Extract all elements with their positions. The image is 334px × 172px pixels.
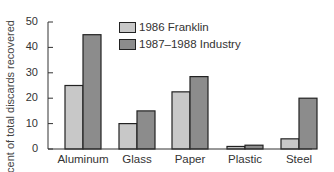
y-tick-30: 30 (18, 66, 38, 78)
legend-item-1987-1988-industry: 1987–1988 Industry (119, 38, 241, 50)
bar-aluminum-1987-1988 (83, 35, 101, 149)
y-tick-10: 10 (18, 117, 38, 129)
y-tick-40: 40 (18, 40, 38, 52)
category-steel: Steel (269, 153, 329, 165)
bar-paper-1987-1988 (190, 77, 208, 149)
bar-steel-1986 (281, 139, 299, 149)
category-glass: Glass (107, 153, 167, 165)
y-tick-50: 50 (18, 15, 38, 27)
bar-chart: Percent of total discards recovered 0 10… (0, 0, 334, 172)
bar-glass-1987-1988 (137, 111, 155, 149)
legend-swatch-dark (119, 39, 136, 50)
bar-aluminum-1986 (65, 86, 83, 150)
category-plastic: Plastic (215, 153, 275, 165)
legend-label: 1987–1988 Industry (139, 38, 241, 50)
legend-label: 1986 Franklin (139, 21, 209, 33)
bar-glass-1986 (119, 124, 137, 149)
bar-plastic-1987-1988 (245, 145, 263, 149)
y-axis-label: Percent of total discards recovered (4, 20, 16, 172)
legend-item-1986-franklin: 1986 Franklin (119, 21, 209, 33)
y-tick-0: 0 (18, 142, 38, 154)
category-aluminum: Aluminum (53, 153, 113, 165)
bar-steel-1987-1988 (299, 98, 317, 149)
legend-swatch-light (119, 22, 136, 33)
category-paper: Paper (160, 153, 220, 165)
bar-paper-1986 (172, 92, 190, 149)
y-tick-20: 20 (18, 91, 38, 103)
